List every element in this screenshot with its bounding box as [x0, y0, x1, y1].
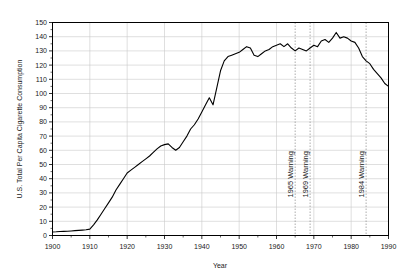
data-series-group — [53, 32, 389, 232]
annotation-label: 1969 Warning — [301, 151, 310, 197]
y-axis-tick-label: 80 — [39, 118, 47, 125]
consumption-line — [53, 32, 389, 232]
y-axis-tick-label: 20 — [39, 204, 47, 211]
y-axis-title: U.S. Total Per Capita Cigarette Consumpt… — [16, 60, 24, 199]
x-axis-tick-label: 1960 — [269, 243, 285, 250]
gridlines-group — [53, 23, 389, 236]
y-axis-tick-label: 0 — [43, 232, 47, 239]
x-axis-tick-label: 1920 — [119, 243, 135, 250]
annotation-label: 1984 Warning — [357, 151, 366, 197]
x-axis-tick-label: 1970 — [306, 243, 322, 250]
y-axis-tick-label: 130 — [35, 47, 47, 54]
y-axis-tick-label: 110 — [36, 76, 47, 83]
x-axis-tick-label: 1980 — [343, 243, 359, 250]
y-axis-tick-label: 40 — [39, 175, 47, 182]
y-axis-tick-label: 30 — [39, 189, 47, 196]
annotation-labels-group: 1965 Warning1969 Warning1984 Warning — [286, 151, 366, 197]
x-axis-tick-label: 1940 — [194, 243, 210, 250]
x-axis-title: Year — [213, 262, 228, 269]
x-axis-tick-label: 1950 — [231, 243, 247, 250]
y-axis-tick-label: 50 — [39, 161, 47, 168]
y-axis-ticks-group: 0102030405060708090100110120130140150 — [35, 19, 52, 239]
chart-container: 0102030405060708090100110120130140150 19… — [0, 0, 418, 276]
y-axis-tick-label: 10 — [39, 218, 47, 225]
y-axis-tick-label: 150 — [35, 19, 47, 26]
x-axis-tick-label: 1990 — [381, 243, 397, 250]
plot-frame — [53, 23, 389, 236]
y-axis-tick-label: 90 — [39, 104, 47, 111]
x-axis-tick-label: 1900 — [45, 243, 61, 250]
annotation-lines-group — [295, 23, 366, 236]
y-axis-tick-label: 120 — [35, 62, 47, 69]
y-axis-tick-label: 140 — [35, 33, 47, 40]
x-axis-ticks-group: 1900191019201930194019501960197019801990 — [45, 236, 397, 250]
y-axis-tick-label: 60 — [39, 147, 47, 154]
x-axis-tick-label: 1910 — [82, 243, 98, 250]
y-axis-tick-label: 100 — [35, 90, 47, 97]
x-axis-tick-label: 1930 — [157, 243, 173, 250]
y-axis-tick-label: 70 — [39, 133, 47, 140]
annotation-label: 1965 Warning — [286, 151, 295, 197]
cigarette-consumption-line-chart: 0102030405060708090100110120130140150 19… — [0, 0, 418, 276]
